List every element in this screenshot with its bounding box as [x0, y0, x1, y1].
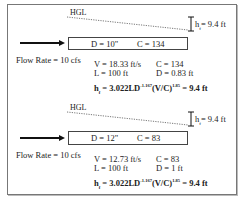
length: L = 100 ft [94, 164, 128, 173]
hgl-label: HGL [70, 103, 86, 112]
pipe-diameter: D = 12" [91, 133, 118, 143]
pipe-panel-12in: HGL hf= 9.4 ft D = 12" C = 83 Flow Rate … [0, 95, 242, 191]
flow-arrow-shaft [20, 42, 60, 44]
length: L = 100 ft [94, 69, 128, 78]
diameter-ft: D = 1 ft [156, 164, 183, 173]
formula-body2: (V/C) [152, 83, 172, 93]
flow-arrow-icon [59, 40, 65, 46]
flow-rate: Flow Rate = 10 cfs [16, 151, 81, 160]
formula-exp1: -1.167 [140, 178, 152, 183]
diameter-ft: D = 0.83 ft [156, 69, 193, 78]
head-loss-value: = 9.4 ft [201, 114, 226, 124]
hazen-williams-formula: hf = 3.022LD-1.167(V/C)1.85 = 9.4 ft [94, 83, 208, 95]
hgl-label: HGL [70, 8, 86, 17]
head-loss-value: = 9.4 ft [201, 19, 226, 29]
pipe-panel-10in: HGL hf= 9.4 ft D = 10" C = 134 Flow Rate… [0, 0, 242, 96]
flow-arrow-icon [59, 135, 65, 141]
formula-exp2: 1.85 [172, 83, 180, 88]
hazen-williams-formula: hf = 3.022LD-1.167(V/C)1.85 = 9.4 ft [94, 178, 208, 190]
head-loss-annotation: hf= 9.4 ft [195, 115, 226, 128]
formula-result: = 9.4 ft [180, 178, 208, 188]
pipe-c-factor: C = 83 [137, 133, 160, 143]
formula-exp2: 1.85 [172, 178, 180, 183]
head-loss-annotation: hf= 9.4 ft [195, 20, 226, 33]
flow-arrow-shaft [20, 137, 60, 139]
pipe-diameter: D = 10" [91, 39, 118, 49]
pipe-segment: D = 10" C = 134 [68, 37, 188, 50]
formula-body1: = 3.022LD [100, 83, 140, 93]
formula-body2: (V/C) [152, 178, 172, 188]
formula-body1: = 3.022LD [100, 178, 140, 188]
formula-exp1: -1.167 [140, 83, 152, 88]
formula-result: = 9.4 ft [180, 83, 208, 93]
pipe-c-factor: C = 134 [137, 39, 164, 49]
flow-rate: Flow Rate = 10 cfs [16, 56, 81, 65]
pipe-segment: D = 12" C = 83 [68, 131, 188, 145]
